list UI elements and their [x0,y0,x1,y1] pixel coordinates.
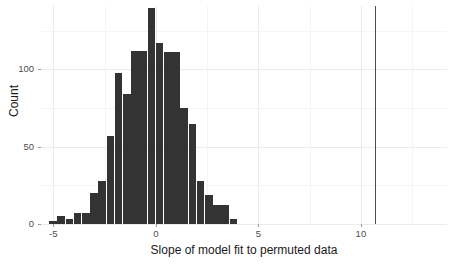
y-tick-label: 100 [18,64,34,74]
histogram-bar [107,136,115,224]
histogram-bar [123,94,131,224]
x-axis-tick-labels: -50510 [41,229,447,243]
x-tick-mark [258,224,259,227]
histogram-bar [205,195,213,224]
x-axis-title: Slope of model fit to permuted data [41,244,447,256]
y-axis-tick-marks [37,6,41,224]
y-tick-mark [38,147,41,148]
x-tick-label: 0 [153,229,158,239]
histogram-bar [115,73,123,225]
x-tick-mark [156,224,157,227]
y-axis-title: Count [8,51,20,151]
permutation-histogram-figure: 050100 -50510 Slope of model fit to perm… [0,0,451,265]
histogram-bar [131,51,139,224]
y-tick-label: 0 [29,219,34,229]
histogram-bar [57,216,65,224]
observed-slope-vline [375,6,376,224]
histogram-bar [221,205,229,224]
y-tick-mark [38,69,41,70]
histogram-bar [98,181,106,224]
histogram-bar [164,52,172,224]
histogram-bar [82,213,90,224]
histogram-bar [180,108,188,224]
x-tick-label: -5 [49,229,57,239]
x-tick-label: 10 [356,229,367,239]
x-tick-mark [361,224,362,227]
x-axis-tick-marks [41,224,447,228]
histogram-bar [172,52,180,224]
histogram-bar [189,124,197,225]
histogram-bar [197,181,205,224]
histogram-bar [148,8,156,225]
histogram-bar [156,43,164,224]
histogram-bars [41,6,447,224]
x-tick-mark [53,224,54,227]
y-tick-label: 50 [23,142,34,152]
histogram-bar [213,205,221,224]
x-tick-label: 5 [256,229,261,239]
plot-panel [41,6,447,224]
histogram-bar [90,193,98,224]
histogram-bar [74,213,82,224]
histogram-bar [139,51,147,224]
